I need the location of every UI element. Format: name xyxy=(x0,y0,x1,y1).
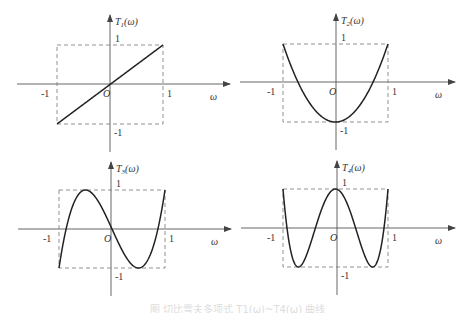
tick-y-pos: 1 xyxy=(342,177,347,188)
tick-x-neg: -1 xyxy=(267,86,275,97)
tick-y-neg: -1 xyxy=(340,125,348,136)
tick-x-neg: -1 xyxy=(43,233,51,244)
tick-x-pos: 1 xyxy=(392,232,397,243)
tick-x-neg: -1 xyxy=(41,88,49,99)
tick-y-neg: -1 xyxy=(114,127,122,138)
origin-label: O xyxy=(330,232,337,243)
y-axis-label: T1(ω) xyxy=(115,16,138,29)
origin-label: O xyxy=(103,88,110,99)
panel-t3: T3(ω)1-1-11Oω xyxy=(18,162,231,296)
x-axis-label: ω xyxy=(435,235,442,246)
tick-y-neg: -1 xyxy=(341,270,349,281)
x-axis-label: ω xyxy=(435,89,442,100)
origin-label: O xyxy=(104,233,111,244)
curve-t2 xyxy=(283,44,388,122)
y-axis-label: T2(ω) xyxy=(341,15,364,28)
tick-y-pos: 1 xyxy=(341,32,346,43)
y-axis-label: T3(ω) xyxy=(116,163,139,176)
panel-t2: T2(ω)1-1-11Oω xyxy=(240,14,455,150)
tick-x-neg: -1 xyxy=(267,232,275,243)
tick-x-pos: 1 xyxy=(169,233,174,244)
origin-label: O xyxy=(329,86,336,97)
x-axis-label: ω xyxy=(210,91,217,102)
x-axis-label: ω xyxy=(211,236,218,247)
tick-y-pos: 1 xyxy=(115,33,120,44)
figure-caption: 图 切比雪夫多项式 T1(ω)~T4(ω) 曲线 xyxy=(150,301,350,313)
tick-x-pos: 1 xyxy=(167,88,172,99)
y-axis-label: T4(ω) xyxy=(342,162,365,175)
tick-y-neg: -1 xyxy=(115,271,123,282)
tick-y-pos: 1 xyxy=(116,178,121,189)
panel-t1: T1(ω)1-1-11Oω xyxy=(17,15,230,152)
tick-x-pos: 1 xyxy=(392,86,397,97)
panel-t4: T4(ω)1-1-11Oω xyxy=(241,161,455,295)
